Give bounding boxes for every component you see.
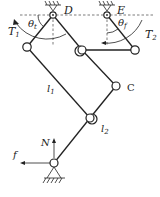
joint-right: [131, 46, 139, 54]
label-D: D: [63, 4, 73, 17]
angle-theta-f-arc: [107, 29, 118, 33]
label-E: E: [116, 4, 125, 17]
label-l1: l1: [47, 83, 55, 96]
angle-theta-t-arc: [38, 15, 44, 27]
label-l2: l2: [101, 123, 109, 136]
torque-T2-arrowhead-icon: [101, 41, 106, 45]
link-C-bottom: [90, 86, 116, 118]
joint-left: [23, 43, 31, 51]
label-T1: T1: [8, 25, 20, 39]
link-middle-C: [82, 50, 116, 86]
ground-D-icon: [45, 1, 61, 11]
label-T2: T2: [145, 28, 157, 42]
link-D-middle: [53, 15, 82, 50]
label-f: f: [12, 149, 19, 160]
linkage-diagram: D E θt T1 θf T2 l1 l2 C N f: [0, 0, 160, 197]
label-N: N: [40, 137, 51, 148]
normal-arrowhead-icon: [52, 138, 56, 143]
joint-bottom: [86, 114, 94, 122]
link-l1: [27, 47, 90, 118]
label-C: C: [127, 82, 135, 93]
joint-middle: [78, 46, 86, 54]
ground-bottom-icon: [43, 167, 65, 183]
label-theta-t: θt: [28, 18, 37, 31]
label-theta-f: θf: [118, 17, 128, 30]
joint-C: [112, 82, 120, 90]
torque-T1-arc: [16, 23, 66, 39]
friction-arrowhead-icon: [20, 161, 25, 165]
link-l2: [54, 118, 90, 163]
ground-E-icon: [99, 1, 115, 11]
pivot-bottom: [50, 159, 58, 167]
